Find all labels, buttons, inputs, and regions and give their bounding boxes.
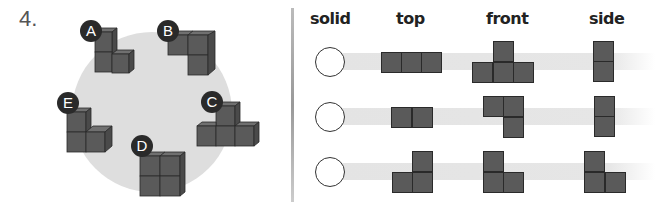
question-number: 4. <box>19 6 37 32</box>
solid-d-badge: D <box>131 135 153 157</box>
solid-a-badge: A <box>80 20 102 42</box>
row-1-answer-circle[interactable] <box>315 47 345 77</box>
header-side: side <box>589 9 624 28</box>
header-top: top <box>396 9 425 28</box>
solid-d-figure <box>137 150 189 204</box>
solid-b-badge: B <box>157 20 179 42</box>
solid-e-figure <box>64 106 122 162</box>
row-3-answer-circle[interactable] <box>315 157 345 187</box>
panel-divider <box>291 8 294 202</box>
header-solid: solid <box>310 9 350 28</box>
header-front: front <box>486 9 528 28</box>
solid-e-badge: E <box>57 92 79 114</box>
solid-c-badge: C <box>201 91 223 113</box>
row-2-answer-circle[interactable] <box>315 102 345 132</box>
